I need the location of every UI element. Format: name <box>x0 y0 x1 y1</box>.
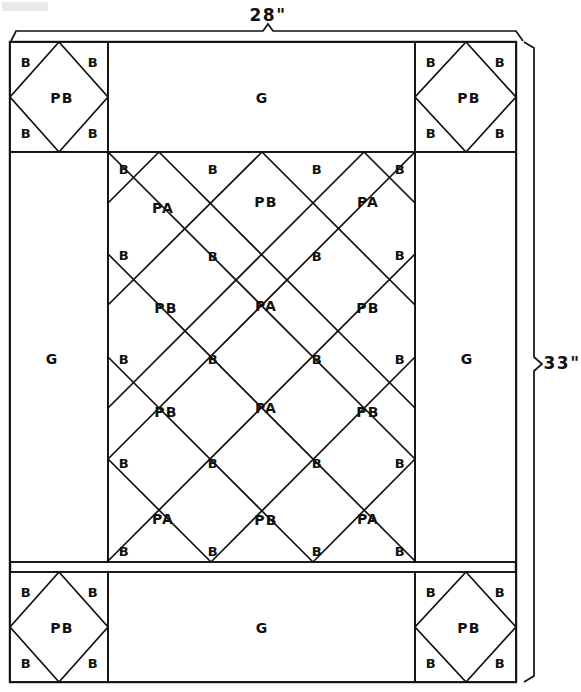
border-panel-bottom: G <box>108 572 415 682</box>
corner-tl-triangle-4: B <box>88 126 98 141</box>
corner-block-bottom-left: B B B B PB <box>10 572 108 682</box>
corner-bl-center: PB <box>50 620 73 636</box>
center-inner-triangle-2a: B <box>208 352 218 367</box>
center-side-triangle-l2: B <box>119 352 129 367</box>
corner-tr-triangle-3: B <box>426 126 436 141</box>
center-diamond-r1c3: PA <box>357 194 379 210</box>
center-diamond-r4c3: PA <box>357 511 379 527</box>
corner-tr-triangle-4: B <box>495 126 505 141</box>
center-diamond-r4c2: PB <box>254 512 277 528</box>
corner-bl-triangle-3: B <box>21 656 31 671</box>
corner-tr-center: PB <box>457 90 480 106</box>
corner-tl-center: PB <box>50 90 73 106</box>
center-diamond-r2c3: PB <box>356 300 379 316</box>
border-panel-bottom-label: G <box>256 620 269 636</box>
corner-br-triangle-1: B <box>426 585 436 600</box>
corner-tl-triangle-2: B <box>88 55 98 70</box>
center-diamond-r2c2: PA <box>255 298 277 314</box>
quilt-layout-diagram: 28" 33" B B B B PB G B B B <box>0 0 581 692</box>
center-inner-triangle-1b: B <box>312 249 322 264</box>
center-inner-triangle-1a: B <box>208 249 218 264</box>
height-dimension-label: 33" <box>543 353 580 373</box>
corner-br-center: PB <box>457 620 480 636</box>
height-dimension-brace <box>524 42 542 682</box>
center-inner-triangle-2b: B <box>312 352 322 367</box>
scan-artifact <box>2 2 48 11</box>
center-side-triangle-r1: B <box>395 248 405 263</box>
corner-tl-triangle-1: B <box>21 55 31 70</box>
corner-br-triangle-4: B <box>495 656 505 671</box>
corner-block-top-left: B B B B PB <box>10 42 108 152</box>
corner-bl-triangle-2: B <box>88 585 98 600</box>
border-panel-left-label: G <box>46 351 59 367</box>
corner-block-bottom-right: B B B B PB <box>415 572 516 682</box>
center-side-triangle-l3: B <box>119 456 129 471</box>
center-diamond-r3c3: PB <box>356 404 379 420</box>
center-diamond-r1c2: PB <box>254 194 277 210</box>
center-bottom-triangle-2: B <box>208 544 218 559</box>
quilt-diagram-canvas: 28" 33" B B B B PB G B B B <box>0 0 581 692</box>
center-top-triangle-1: B <box>119 162 129 177</box>
center-side-triangle-r2: B <box>395 352 405 367</box>
corner-br-triangle-3: B <box>426 656 436 671</box>
corner-tr-triangle-1: B <box>426 55 436 70</box>
center-top-triangle-4: B <box>395 162 405 177</box>
center-side-triangle-l1: B <box>119 248 129 263</box>
border-panel-top-label: G <box>256 90 269 106</box>
border-panel-top: G <box>108 42 415 152</box>
width-dimension-label: 28" <box>249 5 286 25</box>
center-inner-triangle-3a: B <box>208 456 218 471</box>
center-inner-triangle-3b: B <box>312 456 322 471</box>
corner-tl-triangle-3: B <box>21 126 31 141</box>
center-top-triangle-3: B <box>312 162 322 177</box>
center-bottom-triangle-1: B <box>119 544 129 559</box>
center-diamond-panel: B B B B PA PB PA B B B B PB PA <box>108 152 415 562</box>
border-panel-left: G <box>10 152 108 562</box>
border-panel-right-label: G <box>461 351 474 367</box>
center-bottom-triangle-4: B <box>395 544 405 559</box>
width-dimension-brace <box>11 24 523 41</box>
corner-tr-triangle-2: B <box>495 55 505 70</box>
corner-br-triangle-2: B <box>495 585 505 600</box>
center-top-triangle-2: B <box>208 162 218 177</box>
center-diamond-r3c2: PA <box>255 400 277 416</box>
center-diamond-r2c1: PB <box>154 300 177 316</box>
center-diamond-r3c1: PB <box>154 404 177 420</box>
border-panel-right: G <box>415 152 516 562</box>
corner-bl-triangle-4: B <box>88 656 98 671</box>
corner-block-top-right: B B B B PB <box>415 42 516 152</box>
corner-bl-triangle-1: B <box>21 585 31 600</box>
center-bottom-triangle-3: B <box>312 544 322 559</box>
center-diamond-r1c1: PA <box>152 200 174 216</box>
center-side-triangle-r3: B <box>395 456 405 471</box>
center-diamond-r4c1: PA <box>152 511 174 527</box>
